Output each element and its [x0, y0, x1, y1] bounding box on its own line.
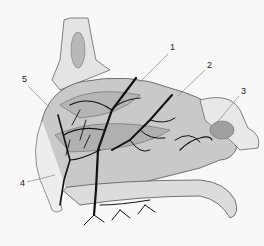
- nasal-cavity-diagram: 1 2 3 4 5: [0, 0, 264, 246]
- label-4: 4: [20, 179, 25, 188]
- label-1: 1: [170, 43, 175, 52]
- diagram-artwork: [0, 0, 264, 246]
- sphenoid-sinus: [210, 121, 234, 139]
- label-5: 5: [22, 75, 27, 84]
- hard-palate: [60, 180, 237, 218]
- frontal-sinus: [71, 32, 85, 68]
- label-3: 3: [241, 87, 246, 96]
- label-2: 2: [207, 61, 212, 70]
